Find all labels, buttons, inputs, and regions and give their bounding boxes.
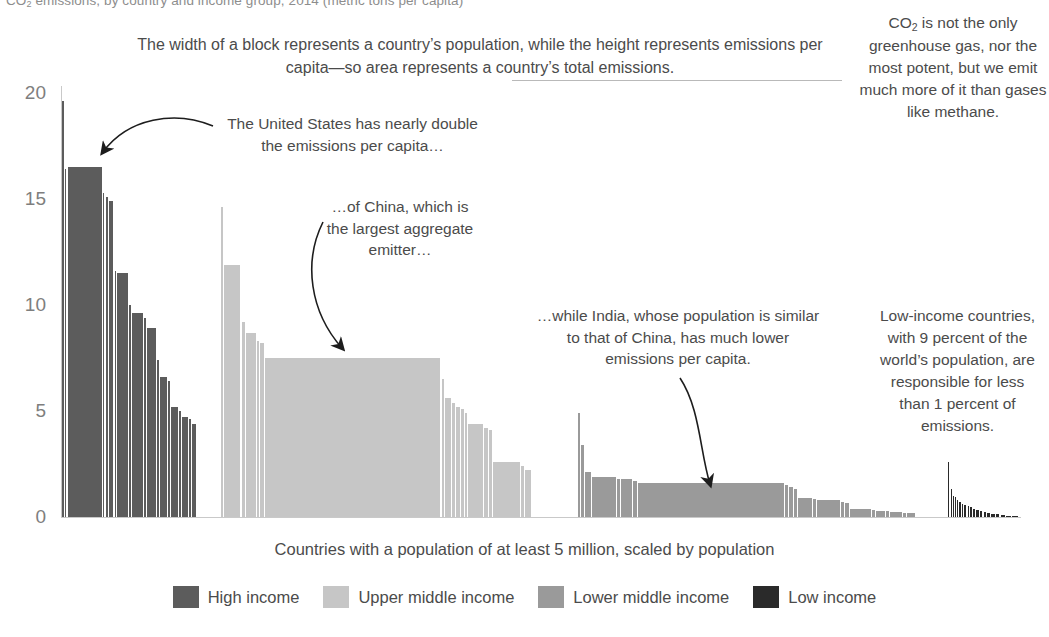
bar [996,514,1000,517]
bar [633,481,637,517]
bar [442,379,444,517]
bar [445,398,451,517]
bar [468,424,482,517]
bar [65,169,67,517]
bar [957,500,958,517]
legend-swatch-icon [538,586,564,608]
bar [962,504,963,517]
bar [171,407,178,517]
bar [493,462,519,517]
annotation-co2-prefix: CO [888,14,911,31]
legend-item-upper-middle-income[interactable]: Upper middle income [323,586,514,608]
bar [109,201,113,517]
bar [1006,516,1011,517]
bar [103,193,105,517]
y-tick-0: 0 [0,507,46,526]
legend-swatch-icon [173,586,199,608]
chart-root: CO2 emissions, by country and income gro… [0,0,1049,637]
bar [260,343,264,517]
y-tick-15: 15 [0,189,46,208]
annotation-co2-note: CO2 is not the only greenhouse gas, nor … [858,12,1048,123]
bar [581,445,584,517]
bar [980,511,982,517]
legend-label: High income [208,588,300,607]
bar [984,512,987,517]
bar [144,318,146,517]
bar [115,271,117,517]
legend-item-high-income[interactable]: High income [173,586,300,608]
bar [179,411,181,517]
bar [968,506,969,517]
bar [242,322,245,517]
bar-group-low-income [948,86,1018,517]
bar [785,485,788,517]
bar [157,360,159,517]
legend-swatch-icon [323,586,349,608]
bar [903,513,907,517]
bar [257,341,259,517]
bar [817,500,840,517]
bar [224,265,240,517]
bar [147,328,156,517]
bar [168,381,170,517]
bar [638,483,784,517]
bar [955,497,956,517]
legend-item-lower-middle-income[interactable]: Lower middle income [538,586,729,608]
bar [987,513,990,517]
bar [189,419,191,517]
bar [798,498,812,517]
bar [456,407,460,517]
bar [876,511,885,517]
bar [621,479,632,517]
bar [461,409,464,517]
bar [160,377,168,517]
bar [484,428,488,517]
legend-swatch-icon [753,586,779,608]
bar [1012,516,1018,517]
bar [890,512,901,517]
bar [106,197,109,517]
bar-group-lower-middle-income [578,86,915,517]
chart-legend: High incomeUpper middle incomeLower midd… [0,586,1049,608]
bar [794,489,797,517]
bar [991,514,995,517]
annotation-india: …while India, whose population is simila… [533,305,823,370]
y-tick-20: 20 [0,83,46,102]
bar [132,313,143,517]
bar [845,503,849,517]
bar [521,466,524,517]
bar [907,513,915,517]
annotation-low-income: Low-income countries, with 9 percent of … [875,305,1040,437]
bar [192,424,196,517]
bar [62,101,64,517]
bar [617,479,620,517]
bar [489,430,492,517]
bar [953,496,954,517]
bar [465,413,467,517]
legend-label: Upper middle income [358,588,514,607]
bar [578,413,580,517]
bar [117,273,127,517]
bar [221,207,223,517]
bar [592,477,616,517]
bar [789,487,793,517]
bar [973,509,975,517]
chart-caption: Countries with a population of at least … [0,540,1049,559]
bar [872,510,875,517]
annotation-underline-rule [512,80,842,81]
bar [182,417,188,517]
annotation-united-states: The United States has nearly double the … [215,113,490,156]
bar [129,305,132,517]
bar [976,510,979,517]
bar [246,333,256,517]
annotation-width-height: The width of a block represents a countr… [120,33,840,79]
bar [1001,515,1005,517]
legend-item-low-income[interactable]: Low income [753,586,876,608]
bar [813,499,816,517]
annotation-china: …of China, which is the largest aggregat… [320,196,480,261]
bar [265,358,440,517]
bar [525,470,531,517]
bar [951,489,952,517]
legend-label: Low income [788,588,876,607]
bar [452,403,455,517]
